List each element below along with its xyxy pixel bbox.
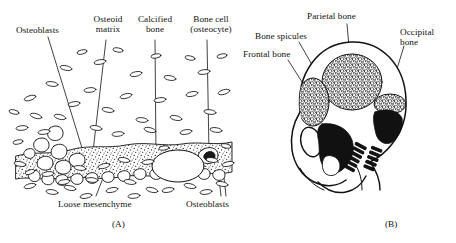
panel-b-caption: (B) xyxy=(385,219,397,229)
vertebral-column xyxy=(343,142,382,172)
osteoblast-row xyxy=(28,168,225,186)
figure-bone-development: Osteoblasts Osteoid matrix Calcified bon… xyxy=(0,0,456,243)
osteocyte-lacuna xyxy=(198,148,218,164)
label-bone-cell-osteocyte: Bone cell (osteocyte) xyxy=(183,14,239,35)
panel-a-leader-lines xyxy=(48,37,226,196)
label-calcified-bone-line2: bone xyxy=(132,24,178,34)
label-loose-mesenchyme: Loose mesenchyme xyxy=(58,199,132,209)
label-bone-cell-line1: Bone cell xyxy=(183,14,239,24)
label-osteoblasts-bottom: Osteoblasts xyxy=(186,199,229,209)
label-calcified-bone: Calcified bone xyxy=(132,14,178,35)
mesenchyme-cells xyxy=(9,47,235,199)
label-parietal-bone: Parietal bone xyxy=(307,11,356,21)
label-osteoid-matrix-line1: Osteoid xyxy=(86,14,130,24)
osteoblast-cluster-left xyxy=(24,126,85,174)
label-calcified-bone-line1: Calcified xyxy=(132,14,178,24)
large-lacuna xyxy=(152,150,204,182)
label-occipital-bone-line1: Occipital xyxy=(400,27,434,37)
label-osteoid-matrix-line2: matrix xyxy=(86,24,130,34)
label-frontal-bone: Frontal bone xyxy=(243,49,290,59)
calcified-bone-band xyxy=(16,142,232,179)
label-occipital-bone: Occipital bone xyxy=(400,27,434,48)
label-bone-cell-line2: (osteocyte) xyxy=(183,24,239,34)
label-bone-spicules: Bone spicules xyxy=(255,31,307,41)
label-osteoid-matrix: Osteoid matrix xyxy=(86,14,130,35)
label-osteoblasts-top: Osteoblasts xyxy=(16,25,59,35)
panel-a-caption: (A) xyxy=(112,219,125,229)
label-occipital-bone-line2: bone xyxy=(400,37,434,47)
bone-spicule-regions xyxy=(297,54,406,126)
fetal-skull xyxy=(291,42,406,193)
